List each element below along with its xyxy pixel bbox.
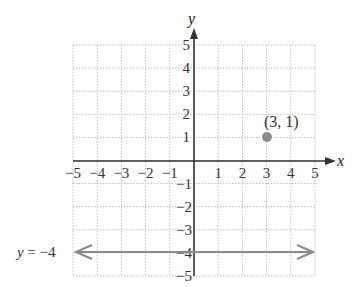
x-axis-arrow-icon: [325, 157, 336, 165]
y-tick-label: −3: [176, 222, 192, 238]
y-tick-label: −5: [176, 268, 192, 284]
y-tick-label: 3: [183, 83, 191, 99]
x-axis-label: x: [336, 152, 344, 169]
point-marker: [262, 132, 272, 142]
y-tick-label: 5: [183, 37, 191, 53]
y-tick-label: 4: [183, 60, 191, 76]
x-tick-label: −2: [138, 165, 154, 181]
line-equation-label: y = −4: [15, 244, 56, 260]
y-tick-label: 1: [183, 129, 191, 145]
y-axis-arrow-icon: [190, 28, 198, 39]
y-tick-label: 2: [183, 106, 191, 122]
x-tick-label: −5: [65, 165, 81, 181]
x-tick-label: 1: [214, 165, 222, 181]
axes: x y: [73, 10, 344, 276]
horizontal-line-y-neg4: y = −4: [15, 244, 313, 260]
line-label-y: y: [15, 244, 24, 260]
point-label: (3, 1): [264, 113, 299, 131]
line-label-rest: = −4: [24, 244, 56, 260]
y-axis-label: y: [186, 10, 196, 28]
x-tick-label: 2: [239, 165, 247, 181]
x-tick-label: 3: [263, 165, 271, 181]
x-tick-label: 5: [311, 165, 319, 181]
y-tick-label: −2: [176, 199, 192, 215]
x-tick-label: −4: [89, 165, 105, 181]
coordinate-plane: x y −5−4−3−2−112345 54321−1−2−3−4−5 y = …: [0, 0, 364, 287]
x-tick-label: 4: [287, 165, 295, 181]
y-tick-label: −1: [176, 176, 192, 192]
x-tick-label: −3: [113, 165, 129, 181]
